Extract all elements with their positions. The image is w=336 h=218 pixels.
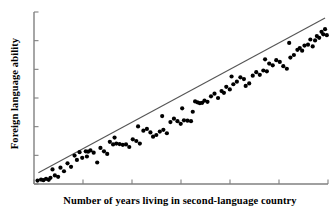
data-point <box>85 154 89 158</box>
data-point <box>145 127 149 131</box>
data-point <box>92 151 96 155</box>
data-point <box>98 146 102 150</box>
data-point <box>179 122 183 126</box>
data-point <box>72 154 76 158</box>
data-point <box>244 84 248 88</box>
data-point <box>75 158 79 162</box>
data-point <box>251 74 255 78</box>
data-point <box>62 169 66 173</box>
data-point <box>180 106 184 110</box>
data-point <box>136 124 140 128</box>
trend-line <box>38 18 325 173</box>
data-point <box>95 160 99 164</box>
data-point <box>160 114 164 118</box>
plot-area <box>30 8 330 188</box>
y-axis-label: Foreign language ability <box>0 0 30 186</box>
data-point <box>231 82 235 86</box>
data-point <box>321 32 325 36</box>
scatter-plot-figure: Foreign language ability Number of years… <box>0 0 336 218</box>
data-point <box>325 33 329 37</box>
data-point <box>235 80 239 84</box>
data-point <box>185 119 189 123</box>
data-point <box>281 64 285 68</box>
data-point <box>288 55 292 59</box>
data-point <box>165 131 169 135</box>
data-point <box>35 178 39 182</box>
data-point <box>56 175 60 179</box>
data-point <box>265 69 269 73</box>
data-point <box>112 135 116 139</box>
data-point <box>285 67 289 71</box>
data-point <box>154 133 158 137</box>
data-point <box>313 38 317 42</box>
data-point <box>247 81 251 85</box>
data-point <box>48 176 52 180</box>
data-point <box>278 60 282 64</box>
data-point <box>77 150 81 154</box>
data-point <box>323 27 327 31</box>
data-point <box>306 43 310 47</box>
data-point <box>134 139 138 143</box>
data-point <box>172 117 176 121</box>
data-point <box>222 91 226 95</box>
data-point <box>229 74 233 78</box>
data-point <box>242 77 246 81</box>
data-point <box>138 141 142 145</box>
data-point <box>148 130 152 134</box>
regression-line <box>38 18 325 173</box>
data-point <box>263 57 267 61</box>
data-point <box>292 53 296 57</box>
data-point <box>216 96 220 100</box>
data-point <box>317 36 321 40</box>
data-point <box>205 100 209 104</box>
plot-canvas <box>30 8 330 188</box>
y-axis-label-text: Foreign language ability <box>10 37 21 148</box>
data-point <box>261 68 265 72</box>
data-point <box>254 70 258 74</box>
data-point <box>228 87 232 91</box>
data-point <box>65 161 69 165</box>
data-point <box>127 145 131 149</box>
data-point <box>189 119 193 123</box>
data-point <box>271 63 275 67</box>
data-point <box>224 85 228 89</box>
data-point <box>300 49 304 53</box>
x-axis-label-text: Number of years living in second-languag… <box>63 195 296 206</box>
data-point <box>258 73 262 77</box>
data-point <box>58 166 62 170</box>
x-axis-label: Number of years living in second-languag… <box>30 190 330 210</box>
data-point <box>161 128 165 132</box>
data-point <box>287 41 291 45</box>
data-point <box>191 110 195 114</box>
data-point <box>168 120 172 124</box>
data-point <box>302 43 306 47</box>
data-point <box>212 92 216 96</box>
data-point <box>69 165 73 169</box>
data-point <box>308 37 312 41</box>
data-point <box>105 152 109 156</box>
data-point <box>50 167 54 171</box>
data-point <box>80 156 84 160</box>
data-points <box>35 27 328 183</box>
data-point <box>311 44 315 48</box>
data-point <box>209 94 213 98</box>
